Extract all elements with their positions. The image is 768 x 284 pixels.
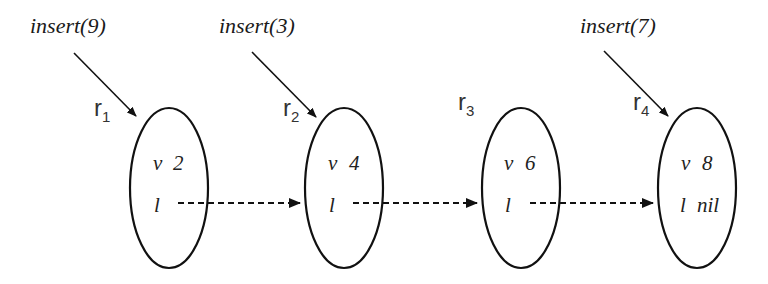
node-label: r1: [94, 94, 110, 125]
field-l-label: l: [154, 193, 160, 217]
field-v-label: v: [504, 151, 514, 175]
node-r1: r1 v 2 l: [94, 94, 208, 268]
field-v-label: v: [681, 151, 691, 175]
field-l-label: l: [329, 193, 335, 217]
field-v-value: 4: [349, 151, 360, 175]
field-l-value-nil: nil: [697, 193, 719, 217]
node-label: r4: [633, 88, 649, 119]
field-l-label: l: [680, 193, 686, 217]
operation-arrow-insert-9: [74, 53, 136, 116]
node-label: r3: [458, 88, 474, 119]
operation-label-insert-7: insert(7): [580, 13, 656, 38]
linked-list-diagram: insert(9) insert(3) insert(7) r1 v 2 l r…: [0, 0, 768, 284]
node-r3: r3 v 6 l: [458, 88, 560, 268]
field-v-label: v: [328, 151, 338, 175]
field-l-label: l: [505, 193, 511, 217]
operation-label-insert-9: insert(9): [30, 13, 106, 38]
node-ellipse: [130, 108, 208, 268]
node-ellipse: [482, 108, 560, 268]
node-ellipse: [658, 108, 736, 268]
operation-label-insert-3: insert(3): [219, 13, 295, 38]
field-v-value: 6: [525, 151, 536, 175]
node-r2: r2 v 4 l: [283, 94, 383, 268]
field-v-label: v: [153, 151, 163, 175]
field-v-value: 2: [173, 151, 184, 175]
node-ellipse: [305, 108, 383, 268]
node-r4: r4 v 8 l nil: [633, 88, 736, 268]
field-v-value: 8: [702, 151, 713, 175]
